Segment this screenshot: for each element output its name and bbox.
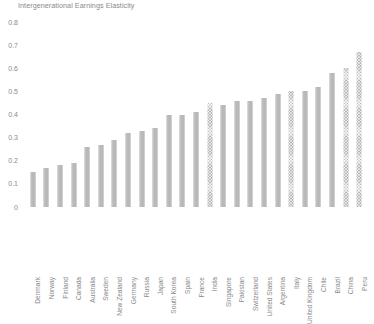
x-tick-label: Canada xyxy=(76,277,83,300)
bar xyxy=(329,73,335,207)
bar xyxy=(111,140,117,207)
x-tick-label: Chile xyxy=(321,277,328,292)
bar xyxy=(275,94,281,207)
y-tick-label: 0.6 xyxy=(8,65,18,72)
y-tick-label: 0.3 xyxy=(8,134,18,141)
y-tick-label: 0.2 xyxy=(8,157,18,164)
x-tick-label: South Korea xyxy=(171,277,178,314)
bar xyxy=(302,91,308,207)
bar xyxy=(30,172,36,207)
x-tick-label: New Zealand xyxy=(117,277,124,316)
x-tick-label: United Kingdom xyxy=(307,277,314,324)
bar xyxy=(98,145,104,207)
x-tick-label: Pakistan xyxy=(239,277,246,302)
bar xyxy=(315,87,321,207)
y-tick-label: 0.8 xyxy=(8,19,18,26)
bar xyxy=(139,131,145,207)
bar xyxy=(166,115,172,208)
plot-area xyxy=(26,22,366,207)
bar xyxy=(179,115,185,208)
x-tick-label: Italy xyxy=(294,277,301,289)
bar xyxy=(288,91,294,207)
bar xyxy=(247,101,253,207)
x-tick-label: Peru xyxy=(362,277,369,291)
x-tick-label: Singapore xyxy=(226,277,233,307)
chart-title: Intergenerational Earnings Elasticity xyxy=(18,1,135,11)
bar xyxy=(152,128,158,207)
x-tick-label: Norway xyxy=(49,277,56,299)
x-tick-label: Brazil xyxy=(335,277,342,294)
x-tick-label: Denmark xyxy=(35,277,42,304)
bar xyxy=(125,133,131,207)
x-tick-label: United States xyxy=(267,277,274,317)
x-tick-label: Switzerland xyxy=(253,277,260,311)
bar xyxy=(43,168,49,207)
y-tick-label: 0.1 xyxy=(8,180,18,187)
x-tick-label: Spain xyxy=(185,277,192,294)
y-tick-label: 0.5 xyxy=(8,88,18,95)
bar xyxy=(207,103,213,207)
bar xyxy=(356,52,362,207)
y-tick-label: 0.4 xyxy=(8,111,18,118)
bar xyxy=(234,101,240,207)
x-tick-label: India xyxy=(212,277,219,291)
x-tick-label: France xyxy=(199,277,206,298)
x-tick-label: Sweden xyxy=(103,277,110,301)
bar xyxy=(193,112,199,207)
x-axis: DenmarkNorwayFinlandCanadaAustraliaSwede… xyxy=(26,209,366,278)
bar xyxy=(220,105,226,207)
x-tick-label: Argentina xyxy=(280,277,287,305)
x-tick-label: Japan xyxy=(158,277,165,295)
bar xyxy=(84,147,90,207)
x-tick-label: Germany xyxy=(131,277,138,304)
bar xyxy=(261,98,267,207)
y-tick-label: 0 xyxy=(14,204,18,211)
bar xyxy=(71,163,77,207)
y-tick-label: 0.7 xyxy=(8,42,18,49)
bar xyxy=(343,68,349,207)
y-axis: 0.80.70.60.50.40.30.20.10 xyxy=(0,16,26,211)
bar xyxy=(57,165,63,207)
x-tick-label: Finland xyxy=(63,277,70,299)
x-tick-label: Australia xyxy=(90,277,97,303)
x-tick-label: China xyxy=(348,277,355,294)
x-tick-label: Russia xyxy=(144,277,151,297)
